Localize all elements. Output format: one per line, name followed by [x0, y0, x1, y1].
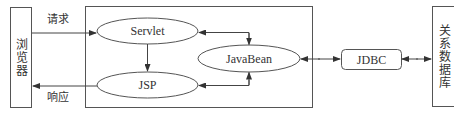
jsp-label: JSP: [138, 78, 156, 92]
diagram-canvas: 请求 响应 Servlet JSP JavaBean JDBC: [0, 0, 454, 117]
response-label: 响应: [47, 90, 69, 103]
javabean-label: JavaBean: [226, 52, 272, 66]
request-label: 请求: [47, 13, 69, 25]
jsp-javabean-connector: [199, 80, 249, 86]
servlet-label: Servlet: [131, 24, 166, 38]
jdbc-label: JDBC: [357, 53, 386, 67]
servlet-javabean-connector: [199, 33, 249, 39]
